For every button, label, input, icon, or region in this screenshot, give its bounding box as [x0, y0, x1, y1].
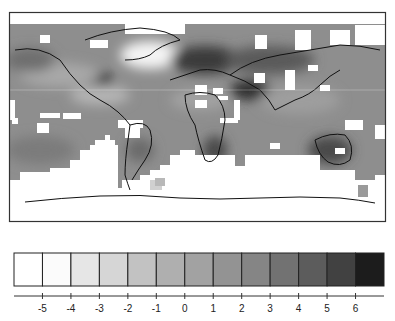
colorbar-box — [156, 253, 184, 286]
anomaly-map — [0, 0, 395, 240]
colorbar-box — [299, 253, 327, 286]
colorbar-tick-label: -1 — [152, 303, 161, 314]
colorbar-box — [242, 253, 270, 286]
colorbar-box — [14, 253, 42, 286]
colorbar-box — [185, 253, 213, 286]
colorbar-tick-label: 5 — [324, 303, 330, 314]
colorbar-tick-label: -3 — [95, 303, 104, 314]
colorbar-tick-label: -2 — [123, 303, 132, 314]
colorbar-tick-label: 2 — [239, 303, 245, 314]
colorbar-tick-label: 0 — [182, 303, 188, 314]
colorbar: -5-4-3-2-10123456 — [0, 240, 395, 321]
colorbar-box — [71, 253, 99, 286]
colorbar-box — [356, 253, 384, 286]
colorbar-box — [42, 253, 70, 286]
colorbar-tick-label: -4 — [66, 303, 75, 314]
colorbar-box — [270, 253, 298, 286]
colorbar-boxes — [14, 253, 384, 286]
colorbar-tick-label: 1 — [210, 303, 216, 314]
colorbar-box — [327, 253, 355, 286]
colorbar-box — [128, 253, 156, 286]
colorbar-tick-label: 3 — [267, 303, 273, 314]
colorbar-box — [99, 253, 127, 286]
map-field — [3, 12, 386, 222]
colorbar-tick-label: -5 — [38, 303, 47, 314]
colorbar-tick-label: 4 — [296, 303, 302, 314]
colorbar-box — [213, 253, 241, 286]
colorbar-tick-label: 6 — [353, 303, 359, 314]
